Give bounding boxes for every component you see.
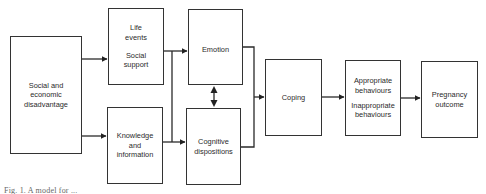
node-label-inappropriate: Inappropriate behaviours xyxy=(351,101,395,120)
node-label: Cognitive dispositions xyxy=(194,137,233,156)
node-label: Knowledge and information xyxy=(117,131,154,159)
node-knowledge-information: Knowledge and information xyxy=(107,107,163,184)
node-label: Pregnancy outcome xyxy=(432,90,467,109)
node-label: Social and economic disadvantage xyxy=(24,81,68,109)
node-label-appropriate: Appropriate behaviours xyxy=(354,76,392,95)
arrow-head-up xyxy=(211,86,218,93)
flow-diagram: Social and economic disadvantage Life ev… xyxy=(0,0,486,194)
arrow-head-down xyxy=(211,100,218,107)
node-emotion: Emotion xyxy=(188,9,243,85)
node-label: Coping xyxy=(282,93,305,102)
node-cognitive-dispositions: Cognitive dispositions xyxy=(186,108,241,185)
node-pregnancy-outcome: Pregnancy outcome xyxy=(421,61,478,138)
node-social-economic-disadvantage: Social and economic disadvantage xyxy=(10,36,82,154)
node-life-events-social-support: Life events Social support xyxy=(108,8,164,85)
node-label-social-support: Social support xyxy=(124,51,149,70)
node-coping: Coping xyxy=(265,59,322,136)
node-behaviours: Appropriate behaviours Inappropriate beh… xyxy=(345,60,401,136)
node-label-life-events: Life events xyxy=(125,23,147,42)
node-label: Emotion xyxy=(202,45,229,54)
figure-caption: Fig. 1. A model for ... xyxy=(4,186,78,194)
